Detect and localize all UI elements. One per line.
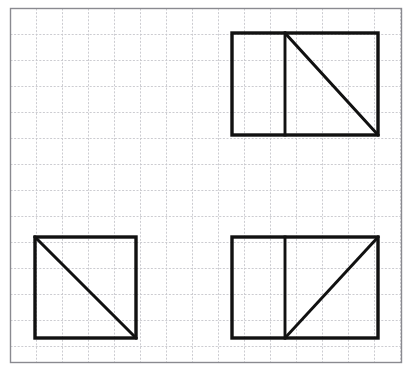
geometry-figure-canvas: Grid with four right-triangle area figur… <box>0 0 413 371</box>
canvas-background <box>0 0 413 371</box>
